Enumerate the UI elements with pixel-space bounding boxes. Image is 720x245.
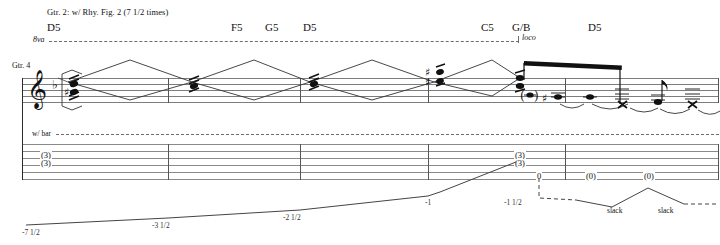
- slack-label-2: slack: [658, 206, 673, 215]
- chord-symbol-d5-1: D5: [47, 21, 60, 33]
- bend-value-3: -2 1/2: [283, 213, 301, 222]
- ottava-dashed-line: [49, 41, 519, 42]
- ottava-end-hook: [518, 36, 519, 43]
- bend-value-1: -7 1/2: [22, 228, 40, 237]
- chord-symbol-g5: G5: [265, 21, 278, 33]
- notehead-cluster-4: ♯ ♯: [425, 62, 451, 94]
- svg-text:♯: ♯: [425, 76, 430, 89]
- whammy-bar-dashed-line: [56, 134, 719, 135]
- svg-text:♯: ♯: [542, 92, 547, 105]
- bend-value-4: -1: [425, 198, 431, 207]
- guitar-tablature-sheet: Gtr. 2: w/ Rhy. Fig. 2 (7 1/2 times) D5 …: [0, 0, 720, 245]
- svg-text:(: (: [520, 89, 525, 103]
- chord-symbol-g-over-b: G/B: [512, 21, 530, 33]
- ottava-8va-label: 8va: [33, 35, 45, 44]
- slack-label-1: slack: [607, 206, 622, 215]
- rhythm-figure-cue: Gtr. 2: w/ Rhy. Fig. 2 (7 1/2 times): [47, 7, 168, 17]
- bend-value-2: -3 1/2: [152, 221, 170, 230]
- chord-symbol-d5-2: D5: [303, 21, 316, 33]
- whammy-bar-label: w/ bar: [32, 129, 51, 138]
- bend-value-5: -1 1/2: [504, 198, 522, 207]
- chord-symbol-f5: F5: [231, 21, 243, 33]
- notehead-cluster-1: ♯: [58, 70, 84, 112]
- svg-text:): ): [534, 89, 539, 103]
- loco-label: loco: [522, 33, 536, 42]
- low-register-notes: ( ) ♯: [520, 82, 720, 122]
- chord-symbol-d5-3: D5: [588, 21, 601, 33]
- svg-text:♯: ♯: [64, 86, 69, 99]
- whammy-bar-dive-curve: [0, 144, 720, 245]
- notehead-cluster-2: [185, 74, 203, 100]
- chord-symbol-c5: C5: [481, 21, 494, 33]
- notehead-cluster-3: [305, 72, 323, 98]
